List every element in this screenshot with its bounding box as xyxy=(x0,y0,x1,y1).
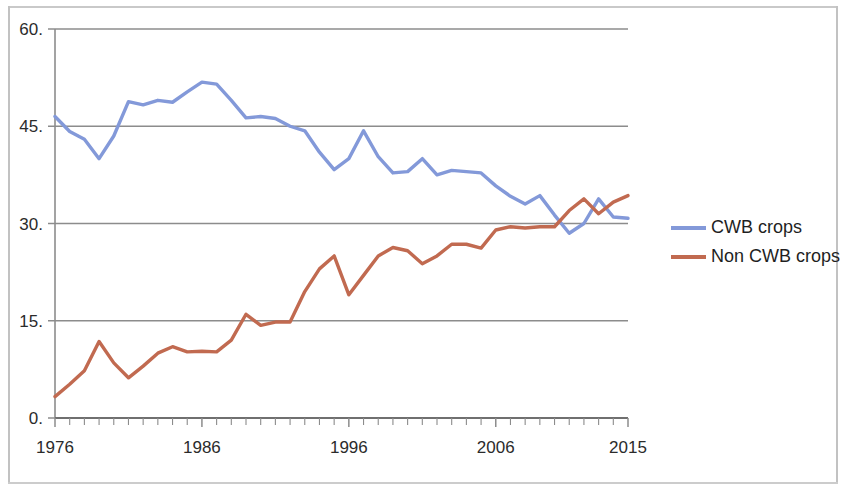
x-axis-label-1996: 1996 xyxy=(330,438,368,457)
y-axis-tick-labels: 0.15.30.45.60. xyxy=(19,20,43,428)
data-series-group xyxy=(55,82,628,396)
y-axis-label-30: 30. xyxy=(19,215,43,234)
x-axis-label-1986: 1986 xyxy=(183,438,221,457)
x-axis-label-1976: 1976 xyxy=(36,438,74,457)
x-axis-ticks xyxy=(55,418,628,427)
y-axis-label-0: 0. xyxy=(29,409,43,428)
y-axis-label-15: 15. xyxy=(19,312,43,331)
legend-label-0: CWB crops xyxy=(711,217,802,237)
y-axis-ticks xyxy=(48,29,55,418)
legend-label-1: Non CWB crops xyxy=(711,246,840,266)
series-line-0 xyxy=(55,82,628,233)
chart-page: 0.15.30.45.60. 19761986199620062015 CWB … xyxy=(0,0,845,488)
line-chart: 0.15.30.45.60. 19761986199620062015 CWB … xyxy=(0,0,845,488)
chart-legend: CWB cropsNon CWB crops xyxy=(671,217,840,266)
x-axis-label-2006: 2006 xyxy=(477,438,515,457)
x-axis-tick-labels: 19761986199620062015 xyxy=(36,438,647,457)
y-axis-label-60: 60. xyxy=(19,20,43,39)
series-line-1 xyxy=(55,196,628,397)
x-axis-label-2015: 2015 xyxy=(609,438,647,457)
y-axis-label-45: 45. xyxy=(19,117,43,136)
